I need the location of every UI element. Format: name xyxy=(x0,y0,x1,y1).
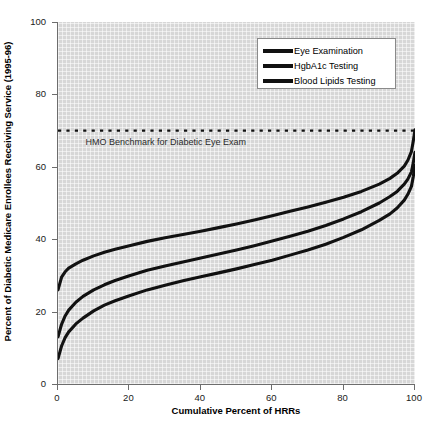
x-tick-label: 40 xyxy=(180,392,220,403)
legend-label: Eye Examination xyxy=(294,46,363,56)
x-tick-label: 60 xyxy=(251,392,291,403)
y-tick-mark xyxy=(52,239,57,240)
y-tick-label: 80 xyxy=(12,88,46,99)
y-tick-label: 100 xyxy=(12,16,46,27)
x-tick-mark xyxy=(200,385,201,390)
legend-item: HgbA1c Testing xyxy=(263,58,392,73)
x-tick-label: 100 xyxy=(394,392,434,403)
y-axis-title: Percent of Diabetic Medicare Enrollees R… xyxy=(0,0,16,411)
y-tick-label: 20 xyxy=(12,306,46,317)
x-tick-mark xyxy=(271,385,272,390)
legend-swatch-icon xyxy=(263,49,293,53)
y-tick-mark xyxy=(52,312,57,313)
legend-label: HgbA1c Testing xyxy=(294,61,358,71)
x-axis-title: Cumulative Percent of HRRs xyxy=(57,405,415,416)
y-tick-mark xyxy=(52,94,57,95)
legend-swatch-icon xyxy=(263,79,293,83)
x-tick-label: 0 xyxy=(37,392,77,403)
y-tick-label: 60 xyxy=(12,161,46,172)
x-tick-label: 20 xyxy=(108,392,148,403)
y-tick-mark xyxy=(52,167,57,168)
benchmark-annotation-label: HMO Benchmark for Diabetic Eye Exam xyxy=(86,137,247,147)
legend-label: Blood Lipids Testing xyxy=(294,76,376,86)
y-tick-mark xyxy=(52,22,57,23)
legend-item: Blood Lipids Testing xyxy=(263,73,392,88)
x-tick-mark xyxy=(343,385,344,390)
series-line xyxy=(58,130,415,290)
x-tick-label: 80 xyxy=(323,392,363,403)
chart-figure: Percent of Diabetic Medicare Enrollees R… xyxy=(0,0,439,439)
legend-item: Eye Examination xyxy=(263,43,392,58)
x-tick-mark xyxy=(57,385,58,390)
x-tick-mark xyxy=(414,385,415,390)
chart-legend: Eye Examination HgbA1c Testing Blood Lip… xyxy=(257,38,396,89)
y-tick-label: 40 xyxy=(12,233,46,244)
series-line xyxy=(58,165,415,358)
series-line xyxy=(58,152,415,337)
legend-swatch-icon xyxy=(263,64,293,68)
x-tick-mark xyxy=(128,385,129,390)
y-tick-label: 0 xyxy=(12,378,46,389)
